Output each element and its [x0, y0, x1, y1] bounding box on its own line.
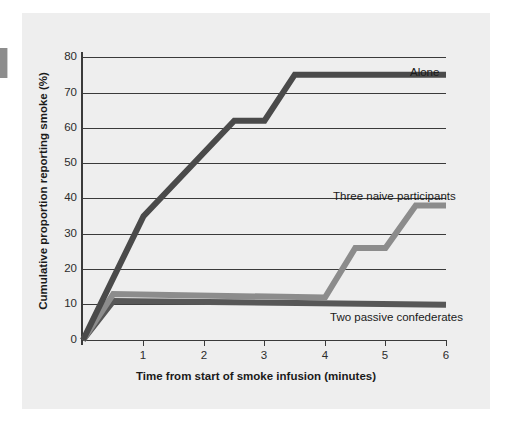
gridline-20 — [83, 269, 446, 270]
xtick-mark-5 — [385, 340, 386, 346]
xtick-label-1: 1 — [133, 349, 153, 361]
gridline-50 — [83, 163, 446, 164]
series-label-alone: Alone — [410, 66, 439, 78]
page-edge-artifact — [0, 48, 8, 78]
xtick-label-3: 3 — [254, 349, 274, 361]
y-axis-title: Cumulative proportion reporting smoke (%… — [37, 61, 49, 321]
y-axis-line — [81, 52, 83, 345]
xtick-label-2: 2 — [194, 349, 214, 361]
xtick-mark-1 — [143, 340, 144, 346]
x-axis-title: Time from start of smoke infusion (minut… — [22, 370, 490, 382]
xtick-mark-3 — [264, 340, 265, 346]
series-label-three-naive-participants: Three naive participants — [333, 190, 456, 202]
xtick-mark-4 — [325, 340, 326, 346]
xtick-mark-6 — [446, 340, 447, 346]
xtick-label-6: 6 — [436, 349, 456, 361]
gridline-10 — [83, 304, 446, 305]
gridline-70 — [83, 93, 446, 94]
gridline-80 — [83, 57, 446, 58]
series-label-two-passive-confederates: Two passive confederates — [330, 311, 463, 323]
xtick-label-4: 4 — [315, 349, 335, 361]
xtick-label-5: 5 — [375, 349, 395, 361]
ytick-label-0: 0 — [43, 334, 77, 345]
xtick-mark-2 — [204, 340, 205, 346]
gridline-30 — [83, 234, 446, 235]
gridline-60 — [83, 128, 446, 129]
